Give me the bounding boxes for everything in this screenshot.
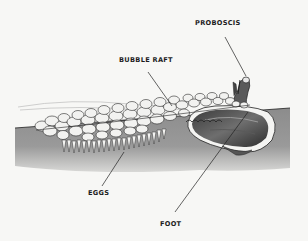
diagram-canvas: PROBOSCIS BUBBLE RAFT EGGS FOOT [0, 0, 308, 241]
label-proboscis: PROBOSCIS [195, 19, 241, 27]
leader-proboscis [225, 37, 246, 76]
snail-illustration [0, 0, 308, 241]
label-eggs: EGGS [88, 189, 109, 197]
label-foot: FOOT [160, 220, 181, 228]
label-bubble-raft: BUBBLE RAFT [119, 56, 173, 64]
